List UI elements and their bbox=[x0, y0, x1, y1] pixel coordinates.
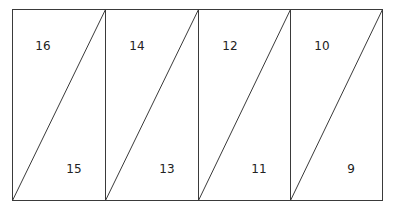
diagonal-2 bbox=[106, 10, 199, 201]
page-number-label: 14 bbox=[129, 40, 144, 52]
page-number-label: 9 bbox=[347, 163, 355, 175]
page-number-label: 12 bbox=[222, 40, 237, 52]
diagonal-3 bbox=[199, 10, 291, 201]
page-number-label: 10 bbox=[314, 40, 329, 52]
page-number-label: 15 bbox=[66, 163, 81, 175]
diagonal-1 bbox=[13, 10, 106, 201]
diagonal-4 bbox=[291, 10, 383, 201]
layout-diagram bbox=[0, 0, 394, 210]
page-number-label: 16 bbox=[35, 40, 50, 52]
page-number-label: 13 bbox=[159, 163, 174, 175]
page-number-label: 11 bbox=[251, 163, 266, 175]
